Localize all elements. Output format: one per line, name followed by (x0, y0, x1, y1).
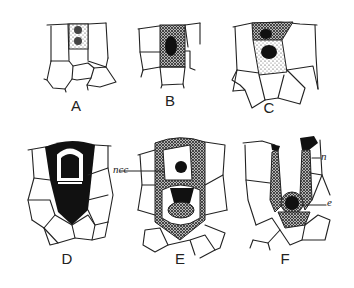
panel-label-b: B (165, 92, 175, 109)
annotation-e: e (327, 196, 332, 208)
panel-label-d: D (62, 250, 73, 267)
panel-label-f: F (280, 250, 289, 267)
panel-label-a: A (71, 97, 81, 114)
panel-label-c: C (264, 99, 275, 116)
panel-e-drawing (120, 138, 227, 258)
panel-a-drawing (44, 23, 116, 92)
annotation-ncc: ncc (113, 163, 128, 175)
cell-diagram (0, 0, 354, 288)
panel-b-drawing (138, 23, 200, 88)
panel-c-drawing (232, 22, 318, 108)
panel-f-drawing (243, 136, 330, 250)
panel-label-e: E (175, 250, 185, 267)
annotation-n: n (321, 150, 327, 162)
panel-d-drawing (28, 141, 113, 245)
